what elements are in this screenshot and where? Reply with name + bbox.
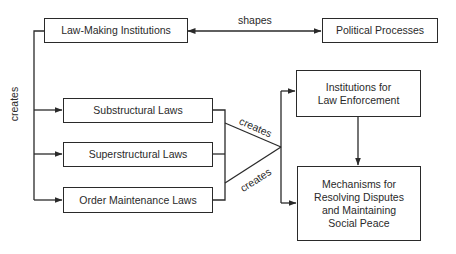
edge-label-creates-left: creates	[8, 87, 20, 121]
node-label: Law-Making Institutions	[61, 24, 171, 37]
institutions-law-enforcement-node: Institutions for Law Enforcement	[296, 70, 421, 117]
node-label-line: Institutions for	[326, 81, 391, 94]
substructural-laws-node: Substructural Laws	[63, 98, 213, 123]
node-label-line: Mechanisms for	[322, 178, 396, 191]
edge-label-shapes: shapes	[238, 14, 272, 26]
node-label-line: and Maintaining	[322, 204, 396, 217]
superstructural-laws-node: Superstructural Laws	[63, 142, 213, 167]
political-processes-node: Political Processes	[322, 18, 438, 43]
node-label: Superstructural Laws	[89, 148, 188, 161]
node-label-line: Law Enforcement	[318, 94, 400, 107]
node-label-line: Social Peace	[328, 217, 389, 230]
node-label-line: Resolving Disputes	[314, 191, 404, 204]
node-label: Substructural Laws	[93, 104, 182, 117]
node-label: Order Maintenance Laws	[79, 194, 196, 207]
mechanisms-resolving-disputes-node: Mechanisms for Resolving Disputes and Ma…	[297, 166, 421, 241]
node-label: Political Processes	[336, 24, 424, 37]
order-maintenance-laws-node: Order Maintenance Laws	[63, 187, 213, 213]
law-making-institutions-node: Law-Making Institutions	[44, 18, 188, 43]
